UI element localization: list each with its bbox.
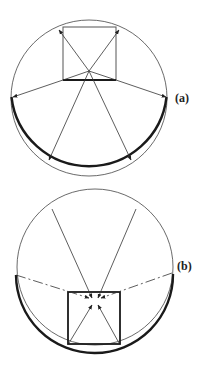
rays-b [16, 209, 172, 343]
panel-b: (b) [16, 189, 192, 353]
circle-b [17, 189, 173, 345]
rays-a [13, 30, 166, 160]
thick-arc-b [16, 274, 173, 353]
circle-a [11, 20, 167, 176]
thick-arc-a [12, 97, 167, 166]
panel-label-b: (b) [177, 259, 192, 273]
panel-label-a: (a) [175, 91, 189, 105]
diagram-canvas: (a) (b) [0, 0, 201, 370]
panel-a: (a) [11, 20, 189, 176]
square-b [68, 292, 120, 344]
